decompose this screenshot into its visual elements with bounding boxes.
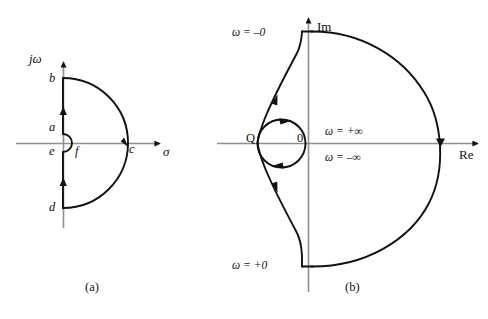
panel-a-point-d-label: d bbox=[49, 201, 55, 214]
panel-a-jomega-axis-label: jω bbox=[29, 52, 42, 65]
panel-a-arrow-lower bbox=[60, 178, 67, 187]
panel-a-arrow-arc-c bbox=[121, 138, 128, 147]
panel-b-caption: (b) bbox=[345, 281, 360, 294]
panel-a-point-a-label: a bbox=[49, 121, 55, 134]
panel-b-point-q-label: Q bbox=[246, 132, 255, 145]
panel-b-omega-minus-zero-label: ω = –0 bbox=[232, 27, 265, 39]
panel-a-caption: (a) bbox=[85, 281, 99, 294]
panel-a-arrow-upper bbox=[60, 107, 67, 116]
panel-b-im-axis-label: Im bbox=[317, 20, 331, 33]
figure-root: jω σ b a e f c d (a) Im Re ω = –0 ω = +0… bbox=[0, 0, 488, 319]
panel-b-origin-label: 0 bbox=[297, 132, 303, 145]
panel-a bbox=[16, 62, 160, 228]
panel-b-large-lobe bbox=[311, 31, 440, 266]
panel-b-lower-left-lobe bbox=[258, 143, 303, 267]
panel-a-point-c-label: c bbox=[129, 143, 135, 156]
panel-b-re-axis-label: Re bbox=[459, 148, 473, 161]
panel-a-point-f-label: f bbox=[75, 145, 78, 158]
panel-a-point-e-label: e bbox=[49, 145, 55, 158]
panel-b-omega-minus-infinity-label: ω = –∞ bbox=[325, 152, 361, 164]
panel-b-omega-plus-infinity-label: ω = +∞ bbox=[325, 126, 363, 138]
panel-b-omega-plus-zero-label: ω = +0 bbox=[232, 260, 267, 272]
panel-a-sigma-axis-label: σ bbox=[163, 145, 169, 158]
panel-a-point-b-label: b bbox=[49, 72, 55, 85]
